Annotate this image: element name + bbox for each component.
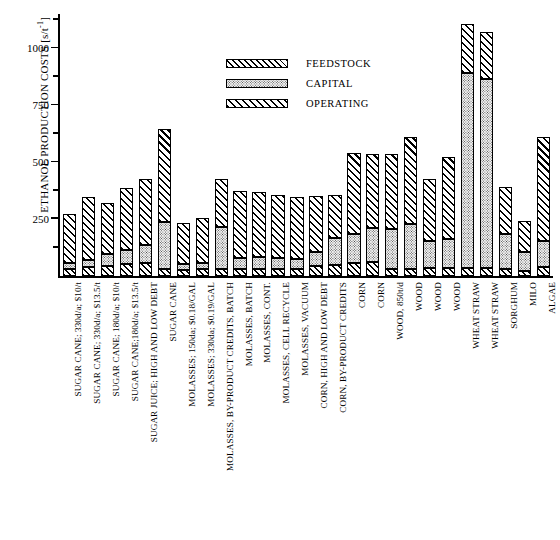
bar-segment-operating [518, 221, 531, 252]
bar [518, 221, 531, 276]
bar-segment-capital [233, 258, 246, 268]
bar-segment-operating [309, 196, 322, 251]
bar-segment-feedstock [120, 264, 133, 276]
bar-segment-capital [177, 264, 190, 270]
bar-segment-capital [518, 252, 531, 271]
bar [309, 196, 322, 276]
bar-segment-operating [385, 154, 398, 229]
bar [120, 188, 133, 276]
bar [423, 179, 436, 276]
y-tick-major [51, 47, 59, 49]
bar-segment-feedstock [139, 263, 152, 276]
bar-segment-feedstock [158, 269, 171, 276]
y-tick-minor [53, 75, 59, 76]
bar-segment-feedstock [82, 267, 95, 276]
bar-segment-operating [177, 223, 190, 264]
x-tick-label: CORN, BY-PRODUCT CREDITS [338, 282, 348, 413]
bar [347, 153, 360, 276]
bar [196, 218, 209, 276]
bar-segment-operating [442, 157, 455, 239]
bar-segment-operating [404, 137, 417, 224]
bar-segment-feedstock [196, 269, 209, 276]
bar-segment-feedstock [404, 269, 417, 276]
bar-segment-capital [480, 79, 493, 268]
bar-segment-feedstock [309, 266, 322, 276]
y-tick-minor [53, 18, 59, 19]
bar-segment-operating [101, 203, 114, 254]
bar-segment-feedstock [101, 266, 114, 276]
legend-label-feedstock: FEEDSTOCK [306, 58, 371, 69]
bar [101, 203, 114, 276]
bar [215, 179, 228, 276]
bar-segment-feedstock [480, 268, 493, 276]
y-tick-major [51, 161, 59, 163]
x-tick-label: MOLASSES; 330da; $0.19/GAL [206, 282, 216, 407]
bar-segment-operating [423, 179, 436, 241]
x-tick-label: MILO [528, 282, 538, 306]
y-tick-minor [53, 246, 59, 247]
bar [290, 197, 303, 277]
bar [499, 187, 512, 276]
x-tick-label: CORN, HIGH AND LOW DEBT [319, 282, 329, 408]
legend-swatch-capital [226, 79, 288, 88]
bar-segment-feedstock [385, 269, 398, 276]
bar [82, 197, 95, 276]
bar [385, 154, 398, 276]
y-tick-label: 500 [33, 156, 50, 168]
bar [404, 137, 417, 276]
x-tick-label: SORGHUM [509, 282, 519, 329]
legend-item-feedstock: FEEDSTOCK [226, 55, 371, 71]
bar-segment-operating [328, 195, 341, 238]
bar-segment-operating [120, 188, 133, 250]
bar-segment-capital [442, 239, 455, 268]
y-tick-major [51, 104, 59, 106]
plot-area: 2505007501000 [58, 14, 553, 278]
x-tick-label: SUGAR CANE;180d/a; $13.5/t [130, 282, 140, 401]
x-tick-label: WOOD [433, 282, 443, 311]
bar-segment-operating [271, 195, 284, 258]
x-axis-tick-labels: SUGAR CANE; 330d/a; $10/tSUGAR CANE; 330… [58, 282, 553, 540]
bar-segment-feedstock [518, 271, 531, 276]
bar-segment-capital [63, 263, 76, 269]
bar [63, 214, 76, 276]
bar-segment-feedstock [499, 269, 512, 276]
bar-segment-operating [158, 129, 171, 222]
x-tick-label: WOOD [414, 282, 424, 311]
legend-label-operating: OPERATING [306, 98, 369, 109]
x-tick-label: WHEAT STRAW [490, 282, 500, 349]
bar [177, 223, 190, 276]
bar-segment-operating [196, 218, 209, 264]
x-tick-label: WOOD [452, 282, 462, 311]
legend: FEEDSTOCK CAPITAL OPERATING [226, 55, 371, 115]
bar-segment-operating [290, 197, 303, 260]
bar [158, 129, 171, 276]
y-tick-label: 1000 [27, 42, 49, 54]
bar-segment-operating [537, 137, 550, 241]
bar-segment-capital [120, 250, 133, 264]
legend-item-operating: OPERATING [226, 95, 371, 111]
bar [252, 192, 265, 276]
bar-segment-feedstock [461, 268, 474, 276]
x-tick-label: SUGAR CANE; 180d/a; $10/t [111, 282, 121, 397]
x-tick-label: MOLASSES, CONT. [262, 282, 272, 363]
x-tick-label: MOLASSES; 150da; $0.18/GAL [187, 282, 197, 407]
bar-group [60, 14, 553, 276]
legend-swatch-operating [226, 99, 288, 108]
bar [461, 24, 474, 276]
bar-segment-operating [215, 179, 228, 227]
bar-segment-capital [290, 259, 303, 269]
y-axis-title-exponent: -1 [36, 21, 45, 28]
bar [271, 195, 284, 276]
bar-segment-capital [139, 245, 152, 263]
bar [139, 179, 152, 277]
bar [480, 32, 493, 276]
x-tick-label: MOLASSES, VACUUM [300, 282, 310, 376]
bar-segment-feedstock [366, 262, 379, 276]
bar-segment-feedstock [177, 270, 190, 276]
y-tick-minor [53, 189, 59, 190]
legend-label-capital: CAPITAL [306, 78, 353, 89]
bar-segment-operating [461, 24, 474, 73]
y-tick-label: 750 [33, 99, 50, 111]
x-tick-label: SUGAR CANE [168, 282, 178, 341]
bar-segment-feedstock [290, 269, 303, 276]
